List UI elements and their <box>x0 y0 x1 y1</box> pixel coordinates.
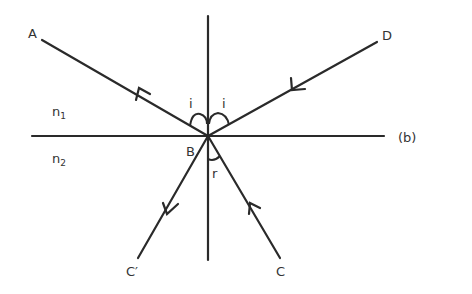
angle-label-i-left: i <box>189 96 193 111</box>
angle-arc-left <box>190 114 207 126</box>
arrow-BC-prime-icon <box>163 203 178 214</box>
label-C-prime: C′ <box>126 264 138 279</box>
angle-label-r: r <box>212 166 218 181</box>
label-B: B <box>186 144 195 159</box>
label-D: D <box>382 28 392 43</box>
ray-BC-prime <box>138 136 208 258</box>
panel-label: (b) <box>398 130 416 145</box>
medium-label-n1: n1 <box>52 104 66 121</box>
angle-label-i-right: i <box>222 96 226 111</box>
ray-CB <box>208 136 280 258</box>
angle-arc-r <box>208 156 220 160</box>
label-C: C <box>276 264 285 279</box>
label-A: A <box>28 26 37 41</box>
angle-arc-right <box>209 113 229 125</box>
refraction-diagram: A D B C′ C (b) i i r n1 n2 <box>0 0 472 294</box>
ray-BA <box>42 40 208 136</box>
medium-label-n2: n2 <box>52 151 66 168</box>
